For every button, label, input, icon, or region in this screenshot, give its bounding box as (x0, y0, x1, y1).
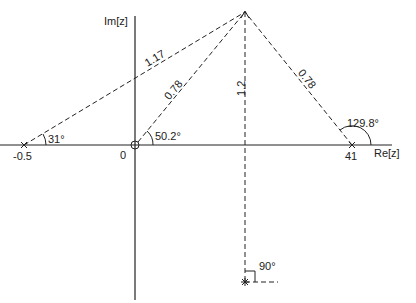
angle-arc-left (43, 134, 46, 145)
angle-label-right: 129.8° (347, 117, 379, 129)
angle-label-bottom: 90° (259, 260, 276, 272)
left-pole-label: -0.5 (13, 150, 32, 162)
segment-label-left: 1.17 (142, 47, 167, 68)
bottom-star-icon (241, 278, 249, 286)
segment-label-vertical: 1.2 (235, 81, 247, 96)
imag-axis-label: Im[z] (104, 15, 128, 27)
angle-label-left: 31° (48, 133, 65, 145)
real-axis-label: Re[z] (374, 147, 400, 159)
segment-label-right: 0.78 (296, 67, 319, 91)
right-pole-label: 41 (345, 150, 357, 162)
vector-origin-to-apex (138, 12, 245, 142)
angle-arc-origin (147, 131, 153, 145)
origin-label: 0 (120, 149, 126, 161)
vector-right-to-apex (245, 12, 352, 145)
angle-label-origin: 50.2° (155, 130, 181, 142)
pole-zero-diagram: Im[z] Re[z] -0.5 0 41 1.17 0.78 0.78 1.2… (0, 0, 416, 303)
